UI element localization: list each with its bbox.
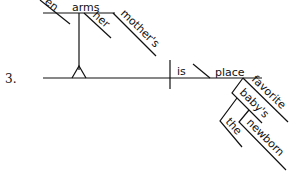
modifier-newborn: newborn — [244, 116, 287, 159]
partial-word: en — [42, 0, 61, 14]
verb-word: is — [177, 65, 186, 78]
sentence-diagram: 3. is place arms en her mother's favorit… — [0, 0, 307, 186]
modifier-mothers: mother's — [118, 7, 162, 50]
predicate-word: place — [215, 66, 245, 79]
item-number: 3. — [5, 72, 16, 86]
predicate-slash — [193, 64, 210, 78]
